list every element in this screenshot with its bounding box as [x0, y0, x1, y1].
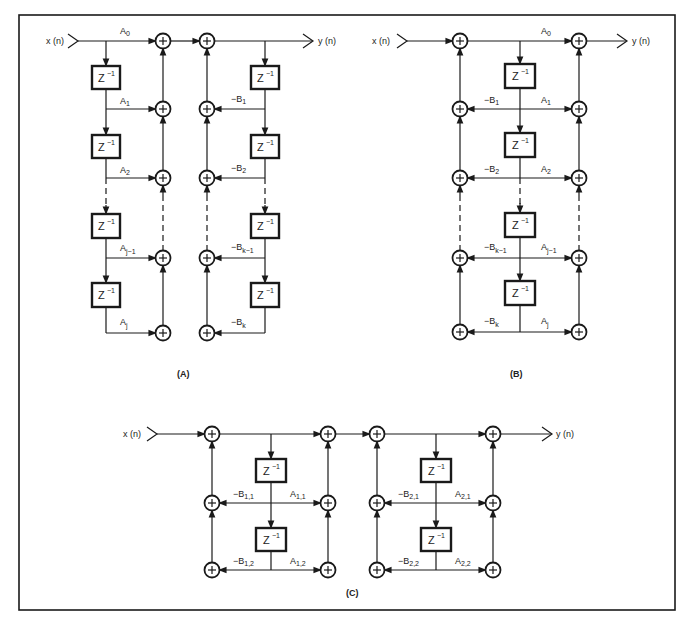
coeff-label: A2 [541, 164, 551, 175]
summer-node [205, 496, 220, 511]
panel-b-input-label: x (n) [372, 36, 390, 46]
summer-node [572, 325, 587, 340]
summer-node [572, 102, 587, 117]
coeff-label: −B2,1 [398, 489, 419, 500]
svg-text:Z: Z [257, 141, 264, 153]
delay-block: Z−1 [256, 459, 286, 482]
input-chevron-icon [147, 427, 157, 441]
summer-node [453, 34, 468, 49]
summer-node [321, 563, 336, 578]
coeff-label: −Bk−1 [484, 242, 507, 254]
coeff-label: −Bk [231, 317, 246, 329]
coeff-label: A1 [541, 95, 551, 106]
svg-text:−1: −1 [437, 532, 445, 539]
svg-text:Z: Z [257, 220, 264, 232]
svg-text:−1: −1 [107, 139, 115, 146]
coeff-label: Aj [541, 316, 549, 329]
summer-node [453, 102, 468, 117]
svg-text:−1: −1 [266, 287, 274, 294]
delay-block: Z−1 [505, 213, 535, 237]
summer-node [486, 427, 501, 442]
summer-node [453, 171, 468, 186]
coeff-label: −B1 [484, 95, 499, 106]
coeff-label: A1,1 [290, 489, 306, 500]
summer-node [572, 171, 587, 186]
svg-text:Z: Z [512, 287, 519, 299]
summer-node [321, 496, 336, 511]
summer-node [200, 326, 215, 341]
svg-text:−1: −1 [272, 532, 280, 539]
delay-block: Z−1 [505, 281, 535, 305]
svg-text:−1: −1 [266, 139, 274, 146]
panel-b-output-label: y (n) [632, 36, 650, 46]
svg-text:Z: Z [512, 139, 519, 151]
summer-node [205, 427, 220, 442]
delay-block: Z−1 [505, 133, 535, 157]
coeff-label: −Bk−1 [231, 242, 254, 254]
svg-text:−1: −1 [272, 463, 280, 470]
summer-node [486, 496, 501, 511]
summer-node [572, 34, 587, 49]
delay-block: Z−1 [251, 283, 279, 307]
coeff-label: −Bk [484, 316, 499, 328]
svg-text:−1: −1 [107, 218, 115, 225]
svg-text:−1: −1 [107, 287, 115, 294]
svg-text:−1: −1 [266, 70, 274, 77]
summer-node [200, 102, 215, 117]
svg-text:Z: Z [512, 219, 519, 231]
coeff-label: A0 [120, 26, 130, 37]
panel-a-caption: (A) [177, 369, 190, 379]
coeff-label: −B2 [231, 163, 246, 174]
coeff-label: A0 [541, 26, 551, 37]
svg-text:Z: Z [263, 465, 270, 477]
delay-block: Z−1 [421, 528, 451, 551]
svg-text:Z: Z [428, 465, 435, 477]
delay-block: Z−1 [92, 135, 120, 158]
summer-node [200, 251, 215, 266]
coeff-label: Aj−1 [541, 242, 557, 255]
coeff-label: A2 [120, 165, 130, 176]
coeff-label: Aj−1 [120, 243, 136, 256]
summer-node [370, 563, 385, 578]
delay-block: Z−1 [256, 528, 286, 551]
summer-node [370, 496, 385, 511]
delay-block: Z−1 [505, 64, 535, 88]
filter-structures-diagram: x (n) y (n) [0, 0, 688, 619]
coeff-label: A2,1 [455, 489, 471, 500]
svg-text:−1: −1 [521, 285, 529, 292]
panel-c-input-label: x (n) [123, 429, 141, 439]
coeff-label: A2,2 [455, 556, 471, 567]
svg-text:Z: Z [98, 289, 105, 301]
summer-node [453, 325, 468, 340]
summer-node [486, 563, 501, 578]
summer-node [205, 563, 220, 578]
panel-a-direct-form-1: x (n) y (n) [46, 26, 336, 379]
summer-node [156, 251, 171, 266]
svg-text:Z: Z [98, 141, 105, 153]
summer-node [370, 427, 385, 442]
svg-text:Z: Z [257, 289, 264, 301]
coeff-label: A1 [120, 96, 130, 107]
panel-c-cascade: x (n) y (n) Z−1 Z−1 Z−1 [123, 427, 574, 599]
summer-node [156, 326, 171, 341]
summer-node [156, 171, 171, 186]
summer-node [321, 427, 336, 442]
coeff-label: −B1,2 [233, 556, 254, 567]
svg-text:Z: Z [98, 72, 105, 84]
panel-a-input-label: x (n) [46, 36, 64, 46]
coeff-label: Aj [120, 317, 128, 330]
summer-node [200, 171, 215, 186]
svg-text:−1: −1 [521, 68, 529, 75]
delay-block: Z−1 [421, 459, 451, 482]
panel-b-caption: (B) [510, 369, 523, 379]
coeff-label: −B2 [484, 164, 499, 175]
panel-a-output-label: y (n) [318, 36, 336, 46]
delay-block: Z−1 [251, 66, 279, 89]
delay-block: Z−1 [92, 66, 120, 89]
svg-text:Z: Z [257, 72, 264, 84]
coeff-label: −B1 [231, 94, 246, 105]
svg-text:−1: −1 [521, 137, 529, 144]
svg-text:Z: Z [98, 220, 105, 232]
coeff-label: −B1,1 [233, 489, 254, 500]
summer-node [572, 251, 587, 266]
